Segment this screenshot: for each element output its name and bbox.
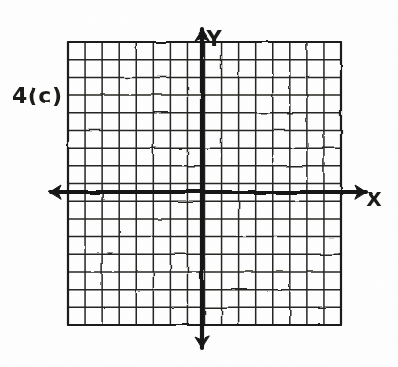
y-axis-label: Y [205, 27, 222, 51]
x-axis-label: X [366, 187, 382, 211]
worksheet-page: Y X 4(c) [0, 0, 398, 367]
coordinate-grid-figure: Y X 4(c) [0, 0, 398, 367]
question-number-label: 4(c) [12, 83, 62, 108]
